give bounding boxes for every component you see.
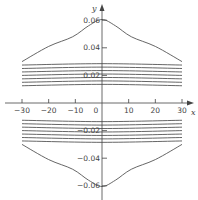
y-tick-label: −0.06 — [77, 181, 100, 190]
axes: x y — [5, 4, 196, 200]
y-axis-label: y — [91, 4, 97, 13]
y-tick-label: −0.02 — [77, 126, 100, 135]
x-tick-label: 20 — [151, 106, 161, 115]
x-tick-label: −10 — [67, 106, 83, 115]
x-tick-label: −20 — [41, 106, 57, 115]
y-axis-arrow-icon — [100, 4, 105, 11]
y-tick-label: 0.04 — [83, 43, 100, 52]
y-tick-label: −0.04 — [77, 154, 100, 163]
y-tick-label: 0.06 — [83, 16, 100, 25]
x-tick-label: −30 — [14, 106, 30, 115]
x-ticks: −30−20−100102030 — [14, 99, 187, 115]
x-axis-arrow-icon — [187, 101, 194, 106]
x-axis-label: x — [191, 108, 196, 117]
chart: x y −30−20−100102030 0.060.040.02−0.02−0… — [0, 0, 198, 200]
x-tick-label: 30 — [177, 106, 187, 115]
x-tick-label: 0 — [94, 106, 99, 115]
y-tick-label: 0.02 — [83, 71, 100, 80]
x-tick-label: 10 — [124, 106, 134, 115]
